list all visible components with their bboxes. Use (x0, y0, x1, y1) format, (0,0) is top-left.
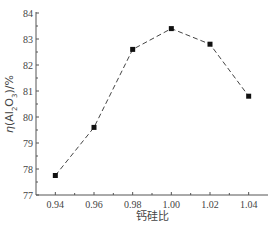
axes: 77787980818283840.940.960.981.001.021.04 (23, 8, 268, 211)
y-tick-label: 83 (23, 34, 33, 45)
x-tick-label: 0.98 (124, 199, 142, 210)
data-point-marker (246, 94, 251, 99)
x-axis-label: 钙硅比 (136, 209, 169, 223)
data-point-marker (53, 173, 58, 178)
y-tick-label: 81 (23, 86, 33, 97)
data-point-marker (130, 47, 135, 52)
series-line (55, 29, 248, 176)
x-tick-label: 0.94 (47, 199, 65, 210)
x-tick-label: 0.96 (85, 199, 103, 210)
y-tick-label: 80 (23, 112, 33, 123)
y-tick-label: 77 (23, 190, 33, 201)
data-point-marker (208, 42, 213, 47)
y-axis-label: η(Al2O3)/% (3, 75, 19, 133)
y-tick-label: 82 (23, 60, 33, 71)
y-tick-label: 79 (23, 138, 33, 149)
x-tick-label: 1.02 (201, 199, 219, 210)
data-point-marker (92, 125, 97, 130)
x-tick-label: 1.00 (163, 199, 181, 210)
y-tick-label: 84 (23, 8, 33, 19)
data-series (53, 26, 251, 178)
y-tick-label: 78 (23, 164, 33, 175)
x-tick-label: 1.04 (240, 199, 258, 210)
chart: 77787980818283840.940.960.981.001.021.04… (0, 0, 269, 228)
data-point-marker (169, 26, 174, 31)
